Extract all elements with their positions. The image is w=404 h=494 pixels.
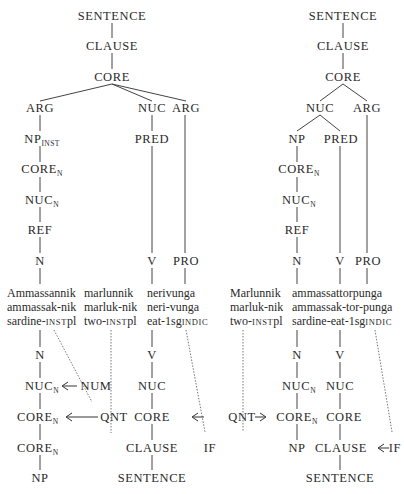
node-v: V <box>147 348 157 362</box>
node-core: CORE <box>326 410 362 424</box>
node-core-n: COREN <box>17 410 59 426</box>
node-np-inst: NPINST <box>24 132 59 148</box>
subscript: N <box>53 200 59 209</box>
node-text: NUC <box>25 193 53 207</box>
subscript: N <box>314 169 320 178</box>
node-v: V <box>147 254 157 268</box>
node-text: CORE <box>17 441 53 455</box>
gloss-smallcaps: INST <box>252 317 273 327</box>
subscript: N <box>312 417 318 426</box>
node-arg: ARG <box>26 101 54 115</box>
word-marlunnik: Marlunnik marluk-nik two-INSTpl <box>230 286 283 329</box>
node-text: CORE <box>17 410 53 424</box>
subscript: N <box>53 448 59 457</box>
gloss-part: pl <box>127 314 136 328</box>
word-marlunnik: marlunnik marluk-nik two-INSTpl <box>84 286 137 329</box>
node-n: N <box>292 254 302 268</box>
subscript: N <box>53 417 59 426</box>
word-morphemes: ammassak-nik <box>7 300 76 314</box>
node-sentence: SENTENCE <box>78 9 147 23</box>
node-qnt: QNT <box>100 410 128 424</box>
node-clause: CLAUSE <box>86 39 138 53</box>
node-np: NP <box>31 471 48 485</box>
word-gloss: two-INSTpl <box>230 314 283 329</box>
subscript: N <box>53 386 59 395</box>
node-text: CORE <box>276 410 312 424</box>
node-qnt: QNT <box>228 410 256 424</box>
node-core: CORE <box>325 70 361 84</box>
gloss-smallcaps: INDIC <box>182 317 209 327</box>
word-surface: Marlunnik <box>230 286 283 300</box>
node-v: V <box>335 254 345 268</box>
node-n: N <box>35 254 45 268</box>
node-np: NP <box>288 441 305 455</box>
node-sentence: SENTENCE <box>309 9 378 23</box>
node-pro: PRO <box>355 254 381 268</box>
node-n: N <box>35 348 45 362</box>
node-arg: ARG <box>353 101 381 115</box>
node-core-n: COREN <box>21 162 63 178</box>
node-nuc-n: NUCN <box>25 379 59 395</box>
node-pred: PRED <box>324 132 358 146</box>
node-nuc: NUC <box>306 101 334 115</box>
node-core: CORE <box>134 410 170 424</box>
node-core-n: COREN <box>276 410 318 426</box>
word-surface: nerivunga <box>147 286 208 300</box>
gloss-part: two- <box>84 314 106 328</box>
word-ammassattorpunga: ammassattorpunga ammassak-tor-punga sard… <box>292 286 392 329</box>
node-pro: PRO <box>173 254 199 268</box>
gloss-smallcaps: INDIC <box>365 317 392 327</box>
node-text: NUC <box>25 379 53 393</box>
subscript: N <box>310 386 316 395</box>
node-arg: ARG <box>172 101 200 115</box>
node-nuc-n: NUCN <box>25 193 59 209</box>
word-morphemes: ammassak-tor-punga <box>292 300 392 314</box>
node-nuc-n: NUCN <box>282 193 316 209</box>
word-gloss: sardine-INSTpl <box>7 314 76 329</box>
subscript: N <box>310 200 316 209</box>
gloss-part: sardine-eat-1sg <box>292 314 365 328</box>
node-nuc: NUC <box>138 101 166 115</box>
node-text: NUC <box>282 193 310 207</box>
subscript: INST <box>41 139 59 148</box>
subscript: N <box>57 169 63 178</box>
node-if: IF <box>204 441 216 455</box>
node-core-n: COREN <box>278 162 320 178</box>
word-gloss: two-INSTpl <box>84 314 137 329</box>
node-if: IF <box>389 441 401 455</box>
node-sentence: SENTENCE <box>118 471 187 485</box>
node-text: NP <box>24 132 41 146</box>
gloss-part: two- <box>230 314 252 328</box>
gloss-smallcaps: INST <box>106 317 127 327</box>
node-np: NP <box>288 132 305 146</box>
node-clause: CLAUSE <box>317 39 369 53</box>
node-clause: CLAUSE <box>126 441 178 455</box>
node-n: N <box>292 348 302 362</box>
word-morphemes: marluk-nik <box>84 300 137 314</box>
node-ref: REF <box>28 223 53 237</box>
word-surface: Ammassannik <box>7 286 76 300</box>
node-nuc: NUC <box>326 379 354 393</box>
gloss-part: sardine- <box>7 314 46 328</box>
word-morphemes: marluk-nik <box>230 300 283 314</box>
node-num: NUM <box>81 379 112 393</box>
node-nuc-n: NUCN <box>282 379 316 395</box>
node-text: CORE <box>21 162 57 176</box>
word-surface: ammassattorpunga <box>292 286 392 300</box>
node-core-n: COREN <box>17 441 59 457</box>
word-morphemes: neri-vunga <box>147 300 208 314</box>
node-nuc: NUC <box>138 379 166 393</box>
node-text: NUC <box>282 379 310 393</box>
word-nerivunga: nerivunga neri-vunga eat-1sgINDIC <box>147 286 208 329</box>
word-gloss: sardine-eat-1sgINDIC <box>292 314 392 329</box>
node-pred: PRED <box>135 132 169 146</box>
word-ammassannik: Ammassannik ammassak-nik sardine-INSTpl <box>7 286 76 329</box>
node-core: CORE <box>94 70 130 84</box>
gloss-part: pl <box>273 314 282 328</box>
gloss-smallcaps: INST <box>46 317 67 327</box>
word-surface: marlunnik <box>84 286 137 300</box>
node-sentence: SENTENCE <box>306 471 375 485</box>
node-ref: REF <box>285 223 310 237</box>
node-v: V <box>335 348 345 362</box>
word-gloss: eat-1sgINDIC <box>147 314 208 329</box>
